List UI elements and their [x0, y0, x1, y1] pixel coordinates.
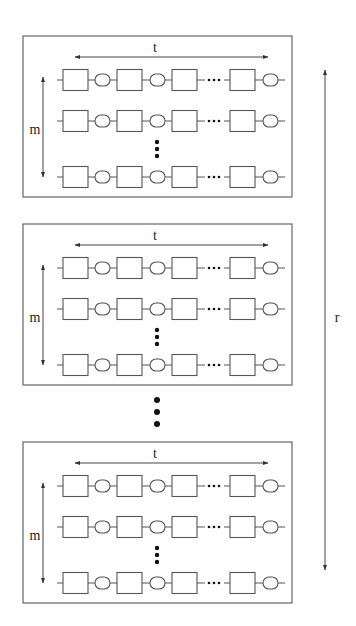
horizontal-ellipsis-dot — [208, 176, 211, 179]
row-ellipsis-dot — [155, 335, 159, 339]
observation-oval — [95, 262, 110, 274]
panel-3: tm — [23, 442, 292, 603]
state-box — [230, 517, 255, 538]
observation-oval — [95, 577, 110, 589]
horizontal-ellipsis-dot — [213, 485, 216, 488]
state-box — [172, 517, 197, 538]
horizontal-ellipsis-dot — [213, 176, 216, 179]
observation-oval — [150, 171, 165, 183]
observation-oval — [263, 577, 278, 589]
horizontal-ellipsis-dot — [208, 364, 211, 367]
state-box — [117, 167, 142, 188]
width-label-t: t — [153, 228, 157, 243]
diagram-canvas: tmtmtm r — [0, 0, 356, 626]
panel-ellipsis-dot — [154, 397, 160, 403]
state-box — [230, 258, 255, 279]
state-box — [172, 70, 197, 91]
observation-oval — [263, 115, 278, 127]
state-box — [172, 476, 197, 497]
state-box — [172, 111, 197, 132]
horizontal-ellipsis-dot — [218, 120, 221, 123]
state-box — [230, 299, 255, 320]
height-label-m: m — [30, 310, 41, 325]
observation-oval — [263, 171, 278, 183]
state-box — [172, 355, 197, 376]
observation-oval — [150, 521, 165, 533]
observation-oval — [150, 115, 165, 127]
horizontal-ellipsis-dot — [208, 79, 211, 82]
state-box — [117, 517, 142, 538]
horizontal-ellipsis-dot — [208, 526, 211, 529]
observation-oval — [150, 480, 165, 492]
horizontal-ellipsis-dot — [218, 267, 221, 270]
state-box — [230, 573, 255, 594]
row-ellipsis-dot — [155, 328, 159, 332]
row-ellipsis-dot — [155, 147, 159, 151]
horizontal-ellipsis-dot — [208, 308, 211, 311]
horizontal-ellipsis-dot — [208, 582, 211, 585]
horizontal-ellipsis-dot — [208, 120, 211, 123]
horizontal-ellipsis-dot — [218, 582, 221, 585]
panel-ellipsis-dot — [154, 421, 160, 427]
row-ellipsis-dot — [155, 553, 159, 557]
horizontal-ellipsis-dot — [218, 308, 221, 311]
observation-oval — [263, 74, 278, 86]
state-box — [63, 111, 88, 132]
state-box — [117, 573, 142, 594]
observation-oval — [95, 359, 110, 371]
observation-oval — [95, 521, 110, 533]
horizontal-ellipsis-dot — [218, 79, 221, 82]
row-ellipsis-dot — [155, 546, 159, 550]
observation-oval — [263, 480, 278, 492]
observation-oval — [263, 521, 278, 533]
observation-oval — [263, 262, 278, 274]
panel-ellipsis-dot — [154, 409, 160, 415]
height-label-m: m — [30, 528, 41, 543]
state-box — [230, 111, 255, 132]
observation-oval — [95, 115, 110, 127]
width-label-t: t — [153, 40, 157, 55]
state-box — [63, 517, 88, 538]
state-box — [63, 573, 88, 594]
state-box — [117, 111, 142, 132]
replication-label-r: r — [335, 310, 340, 325]
panel-1: tm — [23, 36, 292, 197]
state-box — [230, 70, 255, 91]
height-label-m: m — [30, 122, 41, 137]
horizontal-ellipsis-dot — [218, 176, 221, 179]
observation-oval — [95, 74, 110, 86]
horizontal-ellipsis-dot — [213, 120, 216, 123]
state-box — [230, 167, 255, 188]
state-box — [117, 355, 142, 376]
state-box — [63, 258, 88, 279]
observation-oval — [150, 303, 165, 315]
state-box — [63, 355, 88, 376]
state-box — [172, 573, 197, 594]
state-box — [117, 476, 142, 497]
horizontal-ellipsis-dot — [213, 582, 216, 585]
width-label-t: t — [153, 446, 157, 461]
observation-oval — [150, 359, 165, 371]
state-box — [63, 70, 88, 91]
observation-oval — [263, 303, 278, 315]
state-box — [172, 299, 197, 320]
horizontal-ellipsis-dot — [213, 526, 216, 529]
horizontal-ellipsis-dot — [218, 526, 221, 529]
state-box — [117, 70, 142, 91]
panel-2: tm — [23, 224, 292, 385]
state-box — [117, 299, 142, 320]
state-box — [63, 167, 88, 188]
horizontal-ellipsis-dot — [208, 267, 211, 270]
state-box — [172, 258, 197, 279]
observation-oval — [150, 74, 165, 86]
replication-indicator: r — [325, 70, 340, 570]
observation-oval — [95, 480, 110, 492]
horizontal-ellipsis-dot — [213, 267, 216, 270]
horizontal-ellipsis-dot — [213, 364, 216, 367]
state-box — [117, 258, 142, 279]
state-box — [230, 355, 255, 376]
observation-oval — [263, 359, 278, 371]
horizontal-ellipsis-dot — [218, 364, 221, 367]
row-ellipsis-dot — [155, 342, 159, 346]
observation-oval — [150, 262, 165, 274]
